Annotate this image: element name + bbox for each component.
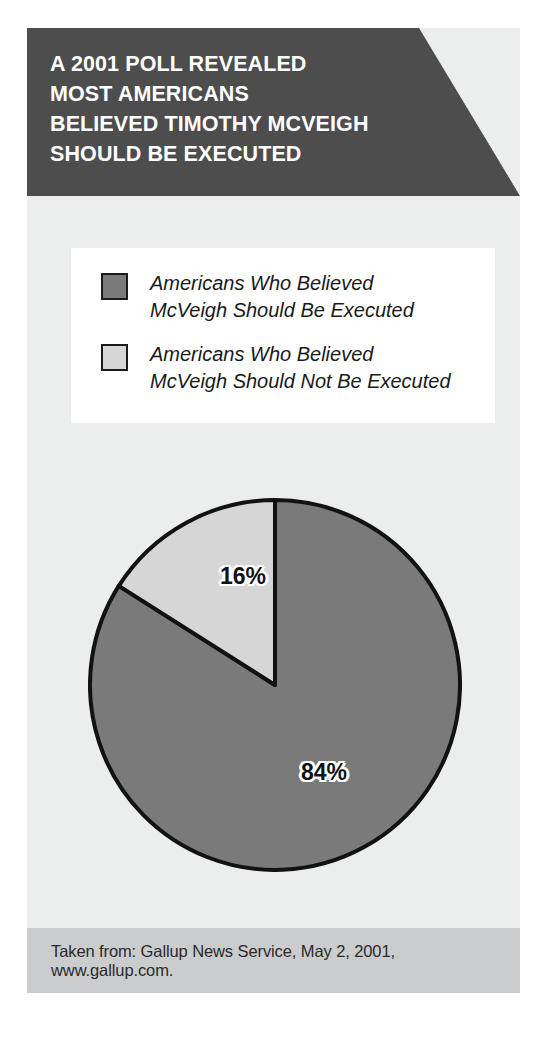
pie-chart-area: 16% 84% xyxy=(27,468,520,878)
legend-item-label: Americans Who Believed McVeigh Should Be… xyxy=(150,270,414,324)
legend-item-not-executed: Americans Who Believed McVeigh Should No… xyxy=(101,341,495,395)
legend-item-label: Americans Who Believed McVeigh Should No… xyxy=(150,341,451,395)
source-footer: Taken from: Gallup News Service, May 2, … xyxy=(27,928,520,993)
page-title: A 2001 POLL REVEALED MOST AMERICANS BELI… xyxy=(50,49,410,169)
pie-label-not-executed: 16% xyxy=(220,563,266,590)
legend-item-executed: Americans Who Believed McVeigh Should Be… xyxy=(101,270,495,324)
chart-legend: Americans Who Believed McVeigh Should Be… xyxy=(71,248,495,423)
pie-label-executed: 84% xyxy=(301,759,347,786)
legend-swatch-icon xyxy=(101,273,128,300)
header-banner: A 2001 POLL REVEALED MOST AMERICANS BELI… xyxy=(27,28,520,196)
pie-chart xyxy=(88,498,462,872)
infographic-card: A 2001 POLL REVEALED MOST AMERICANS BELI… xyxy=(27,28,520,993)
source-text: Taken from: Gallup News Service, May 2, … xyxy=(51,942,520,980)
legend-swatch-icon xyxy=(101,344,128,371)
